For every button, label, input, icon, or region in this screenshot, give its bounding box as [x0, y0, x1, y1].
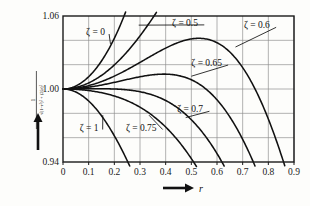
- y-tick-label: 1.06: [42, 11, 59, 21]
- annotation-label: ζ = 0.75: [126, 123, 157, 134]
- figure-container: 00.10.20.30.40.50.60.70.80.9 0.941.001.0…: [0, 0, 310, 206]
- annotation-label: ζ = 1: [80, 123, 99, 134]
- annotation-label: ζ = 0.6: [244, 20, 270, 31]
- x-tick-label: 0.2: [108, 167, 120, 177]
- x-tick-label: 0.5: [185, 167, 197, 177]
- x-tick-label: 0.1: [83, 167, 95, 177]
- y-tick-label: 1.00: [42, 84, 59, 94]
- annotation-label: ζ = 0.5: [172, 18, 198, 29]
- x-tick-label: 0.4: [160, 167, 172, 177]
- y-tick-label: 0.94: [42, 157, 59, 167]
- x-tick-label: 0.3: [134, 167, 146, 177]
- x-tick-label: 0: [61, 167, 66, 177]
- magnification-factor-chart: 00.10.20.30.40.50.60.70.80.9 0.941.001.0…: [0, 0, 310, 206]
- x-tick-label: 0.9: [288, 167, 300, 177]
- x-tick-label: 0.6: [211, 167, 223, 177]
- x-axis-label: r: [199, 183, 203, 194]
- x-tick-label: 0.7: [237, 167, 249, 177]
- y-axis-numerator: 1: [30, 99, 36, 102]
- annotation-label: ζ = 0.7: [177, 104, 203, 115]
- annotation-label: ζ = 0: [86, 27, 105, 38]
- annotation-label: ζ = 0.65: [191, 58, 222, 69]
- x-tick-label: 0.8: [262, 167, 274, 177]
- y-axis-denominator: √(1−r²)² + (2ζr)²: [39, 84, 44, 114]
